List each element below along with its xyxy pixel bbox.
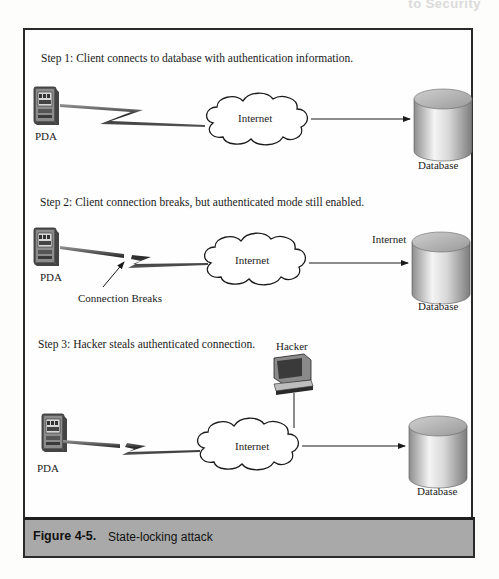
- step-1-description: Step 1: Client connects to database with…: [41, 52, 353, 64]
- step-1-internet-label: Internet: [238, 112, 272, 124]
- step-3-description: Step 3: Hacker steals authenticated conn…: [38, 338, 255, 350]
- step-2-internet-label: Internet: [235, 254, 269, 266]
- pda-icon: [42, 414, 67, 452]
- break-pointer-arrow: [103, 262, 124, 287]
- database-icon: [412, 232, 470, 304]
- wireless-link-broken-icon: [60, 246, 208, 268]
- step-3-hacker-label: Hacker: [276, 340, 308, 352]
- pda-icon: [34, 87, 59, 125]
- database-icon: [409, 416, 467, 488]
- database-icon: [414, 89, 472, 161]
- wireless-link-broken-icon: [63, 440, 200, 455]
- step-2-pda-label: PDA: [40, 271, 62, 283]
- step-1-pda-label: PDA: [35, 130, 57, 142]
- figure-title: State-locking attack: [108, 530, 213, 544]
- step-2-extra-internet-label: Internet: [372, 233, 406, 245]
- step-2-description: Step 2: Client connection breaks, but au…: [40, 196, 364, 208]
- step-1-database-label: Database: [418, 159, 458, 171]
- step-3-pda-label: PDA: [37, 462, 59, 474]
- step-3-diagram: [42, 354, 467, 488]
- step-2-database-label: Database: [418, 300, 458, 312]
- figure-caption-bar: Figure 4-5. State-locking attack: [23, 517, 475, 558]
- wireless-link-icon: [60, 104, 205, 127]
- hacker-computer-icon: [274, 354, 313, 395]
- step-3-internet-label: Internet: [235, 440, 269, 452]
- step-3-database-label: Database: [417, 485, 457, 497]
- figure-number: Figure 4-5.: [33, 529, 96, 543]
- step-1-diagram: [34, 87, 472, 161]
- step-2-break-label: Connection Breaks: [78, 292, 162, 304]
- pda-icon: [34, 228, 59, 266]
